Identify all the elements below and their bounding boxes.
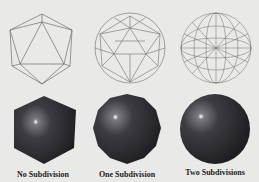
caption-no-subdivision: No Subdivision [0,170,86,179]
shaded-one-subdivision [90,92,164,166]
caption-two-subdivisions: Two Subdivisions [172,168,258,177]
wireframe-one-subdivision [90,6,170,86]
shaded-icosahedron [6,92,78,164]
wireframe-two-subdivisions [176,6,256,86]
shaded-two-subdivisions [178,93,252,167]
wireframe-icosahedron [4,8,80,88]
caption-one-subdivision: One Subdivision [84,170,170,179]
